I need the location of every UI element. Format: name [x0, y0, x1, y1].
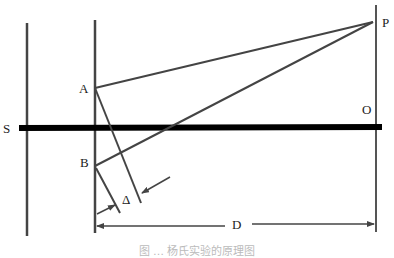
optical-axis: [19, 127, 382, 128]
ray-a-to-p: [95, 22, 373, 88]
delta-arrow-right: [142, 177, 170, 193]
delta-arrow-left: [97, 205, 115, 214]
label-o: O: [362, 103, 371, 116]
figure-caption: 图 … 杨氏实验的原理图: [0, 246, 394, 257]
label-a: A: [79, 82, 88, 95]
label-s: S: [3, 122, 10, 135]
label-p: P: [382, 16, 389, 29]
label-d: D: [232, 218, 241, 231]
label-b: B: [80, 156, 89, 169]
path-line-b: [96, 168, 120, 213]
ray-b-to-p: [95, 22, 373, 166]
label-delta: Δ: [122, 193, 130, 206]
